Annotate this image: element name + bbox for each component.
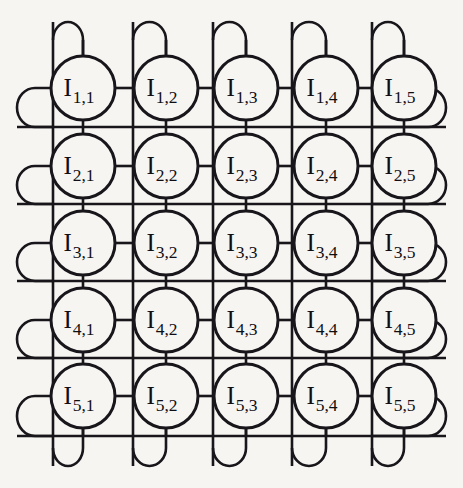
node-label-base-4-5: I (384, 306, 392, 333)
node-label-subscript-1-1: 1,1 (73, 87, 95, 107)
node-5-4[interactable]: I5,4 (294, 364, 358, 428)
node-4-3[interactable]: I4,3 (214, 288, 278, 352)
node-label-base-2-1: I (63, 152, 71, 179)
node-4-2[interactable]: I4,2 (134, 288, 198, 352)
node-label-subscript-2-2: 2,2 (156, 165, 178, 185)
node-label-base-1-4: I (306, 74, 314, 101)
node-label-base-2-2: I (146, 152, 154, 179)
node-1-5[interactable]: I1,5 (372, 56, 436, 120)
node-5-2[interactable]: I5,2 (134, 364, 198, 428)
node-label-base-1-2: I (146, 74, 154, 101)
wraparound-loop-left-row-2 (17, 166, 53, 204)
node-label-base-3-1: I (63, 229, 71, 256)
node-label-base-3-3: I (226, 229, 234, 256)
node-3-4[interactable]: I3,4 (294, 211, 358, 275)
wraparound-loop-left-row-3 (17, 243, 53, 281)
node-label-subscript-5-2: 5,2 (156, 395, 178, 415)
node-label-base-5-2: I (146, 382, 154, 409)
node-label-subscript-5-3: 5,3 (236, 395, 258, 415)
node-label-subscript-2-4: 2,4 (316, 165, 338, 185)
node-label-base-2-5: I (384, 152, 392, 179)
node-label-subscript-2-3: 2,3 (236, 165, 258, 185)
node-label-base-5-1: I (63, 382, 71, 409)
node-4-1[interactable]: I4,1 (51, 288, 115, 352)
node-label-subscript-3-1: 3,1 (73, 242, 95, 262)
node-label-base-5-3: I (226, 382, 234, 409)
node-label-subscript-1-2: 1,2 (156, 87, 178, 107)
node-1-4[interactable]: I1,4 (294, 56, 358, 120)
node-label-subscript-5-1: 5,1 (73, 395, 95, 415)
node-3-3[interactable]: I3,3 (214, 211, 278, 275)
node-label-base-4-2: I (146, 306, 154, 333)
node-1-3[interactable]: I1,3 (214, 56, 278, 120)
node-label-base-4-3: I (226, 306, 234, 333)
wraparound-loop-bottom-col-4 (292, 428, 326, 466)
node-label-base-3-2: I (146, 229, 154, 256)
wraparound-loop-top-col-2 (133, 22, 166, 56)
wraparound-loop-top-col-5 (372, 22, 404, 56)
node-5-3[interactable]: I5,3 (214, 364, 278, 428)
node-label-base-1-5: I (384, 74, 392, 101)
node-4-5[interactable]: I4,5 (372, 288, 436, 352)
node-label-subscript-4-1: 4,1 (73, 319, 95, 339)
wraparound-loop-bottom-col-3 (213, 428, 246, 466)
node-label-base-4-1: I (63, 306, 71, 333)
node-label-subscript-3-2: 3,2 (156, 242, 178, 262)
node-3-2[interactable]: I3,2 (134, 211, 198, 275)
wraparound-loop-top-col-4 (292, 22, 326, 56)
node-label-subscript-1-4: 1,4 (316, 87, 338, 107)
node-1-1[interactable]: I1,1 (51, 56, 115, 120)
topology-canvas: I1,1I1,2I1,3I1,4I1,5I2,1I2,2I2,3I2,4I2,5… (0, 0, 463, 488)
node-label-base-1-1: I (63, 74, 71, 101)
wraparound-loop-top-col-1 (53, 22, 83, 56)
node-label-base-3-5: I (384, 229, 392, 256)
node-label-subscript-5-4: 5,4 (316, 395, 338, 415)
wraparound-loop-left-row-4 (17, 320, 53, 358)
node-5-5[interactable]: I5,5 (372, 364, 436, 428)
node-label-subscript-2-1: 2,1 (73, 165, 95, 185)
node-label-base-3-4: I (306, 229, 314, 256)
node-label-base-2-3: I (226, 152, 234, 179)
node-label-base-4-4: I (306, 306, 314, 333)
node-label-subscript-1-3: 1,3 (236, 87, 258, 107)
node-2-5[interactable]: I2,5 (372, 134, 436, 198)
node-1-2[interactable]: I1,2 (134, 56, 198, 120)
node-label-subscript-4-5: 4,5 (394, 319, 416, 339)
node-label-base-5-4: I (306, 382, 314, 409)
node-label-subscript-4-3: 4,3 (236, 319, 258, 339)
nodes-layer: I1,1I1,2I1,3I1,4I1,5I2,1I2,2I2,3I2,4I2,5… (51, 56, 436, 428)
node-2-3[interactable]: I2,3 (214, 134, 278, 198)
node-3-1[interactable]: I3,1 (51, 211, 115, 275)
wraparound-loop-bottom-col-2 (133, 428, 166, 466)
node-label-subscript-5-5: 5,5 (394, 395, 416, 415)
wraparound-loop-bottom-col-1 (53, 428, 83, 466)
node-label-subscript-2-5: 2,5 (394, 165, 416, 185)
node-label-subscript-4-2: 4,2 (156, 319, 178, 339)
node-4-4[interactable]: I4,4 (294, 288, 358, 352)
wraparound-loop-left-row-1 (17, 88, 53, 127)
node-5-1[interactable]: I5,1 (51, 364, 115, 428)
node-label-base-1-3: I (226, 74, 234, 101)
wraparound-loop-bottom-col-5 (372, 428, 404, 466)
node-label-subscript-4-4: 4,4 (316, 319, 338, 339)
node-label-subscript-3-4: 3,4 (316, 242, 338, 262)
torus-topology-figure: I1,1I1,2I1,3I1,4I1,5I2,1I2,2I2,3I2,4I2,5… (0, 0, 463, 488)
wraparound-loop-top-col-3 (213, 22, 246, 56)
node-label-subscript-1-5: 1,5 (394, 87, 416, 107)
node-2-1[interactable]: I2,1 (51, 134, 115, 198)
node-2-4[interactable]: I2,4 (294, 134, 358, 198)
node-label-subscript-3-5: 3,5 (394, 242, 416, 262)
node-label-base-5-5: I (384, 382, 392, 409)
wraparound-loop-left-row-5 (17, 396, 53, 436)
node-2-2[interactable]: I2,2 (134, 134, 198, 198)
node-label-base-2-4: I (306, 152, 314, 179)
node-label-subscript-3-3: 3,3 (236, 242, 258, 262)
node-3-5[interactable]: I3,5 (372, 211, 436, 275)
